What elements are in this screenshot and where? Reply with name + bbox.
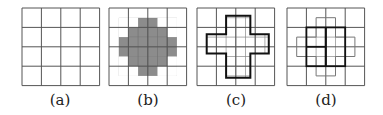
panel-c	[197, 8, 275, 86]
panel-a-label: (a)	[40, 91, 80, 109]
mask	[167, 57, 177, 67]
panel-b	[109, 8, 187, 86]
panel-c-label: (c)	[216, 91, 256, 109]
panel-b-label: (b)	[128, 91, 168, 109]
mask	[119, 57, 129, 67]
mask	[167, 27, 177, 37]
panel-d-label: (d)	[306, 91, 346, 109]
mask	[119, 27, 129, 37]
panel-a	[22, 8, 100, 86]
panel-d	[287, 8, 365, 86]
